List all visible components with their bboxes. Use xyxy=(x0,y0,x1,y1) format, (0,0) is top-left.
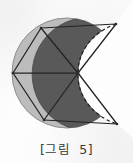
figure-page: [그림 5] xyxy=(0,0,133,163)
figure-image xyxy=(0,0,133,138)
vertex-dot-center xyxy=(77,72,80,75)
vertex-dot-left xyxy=(12,72,15,75)
vertex-dot-bottom-left xyxy=(43,119,46,122)
vertex-dot-top-right xyxy=(115,23,118,26)
vertex-dot-top-left xyxy=(40,27,43,30)
vertex-dot-bottom-right xyxy=(116,123,119,126)
geometry-diagram-svg xyxy=(0,0,133,138)
figure-caption: [그림 5] xyxy=(0,139,133,158)
